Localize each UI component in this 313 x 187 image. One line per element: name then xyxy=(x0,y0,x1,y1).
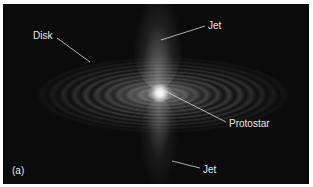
jet-bottom-leader-line xyxy=(172,161,200,168)
jet-bottom-label: Jet xyxy=(203,165,216,175)
protostar-leader-line xyxy=(163,90,226,122)
protostar-label: Protostar xyxy=(229,119,270,129)
jet-top-leader-line xyxy=(161,26,205,40)
leader-lines xyxy=(0,0,313,187)
disk-label: Disk xyxy=(33,31,52,41)
jet-top-label: Jet xyxy=(208,21,221,31)
panel-label: (a) xyxy=(12,166,24,176)
disk-leader-line xyxy=(57,38,90,62)
